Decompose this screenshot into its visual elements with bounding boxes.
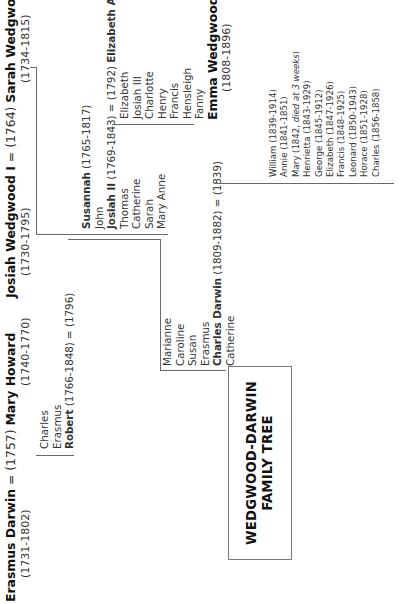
emma-wedgwood-dates: (1808-1896): [221, 23, 234, 92]
mary-howard-name: Mary Howard: [3, 333, 18, 426]
erasmus-darwin-couple: Erasmus Darwin = (1757) Mary Howard: [4, 333, 18, 602]
susannah-dates: (1765-1817): [80, 105, 92, 169]
child-susan: Susan: [186, 161, 199, 366]
connector-line: [214, 183, 274, 184]
charles-darwin-name: Charles Darwin: [211, 278, 223, 366]
connector-line: [68, 239, 160, 240]
connector-line: [274, 183, 394, 184]
child-horace: Horace (1851-1928): [359, 51, 370, 177]
title-line-2: FAMILY TREE: [260, 415, 277, 511]
josiah-marriage: = (1764): [3, 107, 18, 163]
charles-darwin-line: Charles Darwin (1809-1882) = (1839): [211, 161, 224, 366]
josiah-ii-line: Josiah II (1769-1843) = (1792) Elizabeth…: [105, 0, 118, 229]
child-caroline: Caroline: [174, 161, 187, 366]
mary-name: Mary (1842,: [291, 122, 301, 177]
child-mary: Mary (1842, died at 3 weeks): [291, 51, 302, 177]
josiah-ii-name: Josiah II: [105, 183, 117, 229]
child-francis: Francis: [168, 68, 181, 119]
robert-details: (1766-1848) = (1796): [63, 293, 75, 407]
josiah-wedgwood-dates: (1730-1795): [20, 207, 33, 276]
child-henrietta: Henrietta (1843-1929): [302, 51, 313, 177]
child-john: John: [93, 0, 106, 229]
josiah-ii-children-list: Elizabeth Josiah III Charlotte Henry Fra…: [118, 68, 206, 119]
family-tree-diagram: Erasmus Darwin = (1757) Mary Howard (173…: [0, 0, 407, 604]
emma-wedgwood-name: Emma Wedgwood: [206, 0, 220, 120]
child-william: William (1839-1914): [268, 51, 279, 177]
darwin-wedgwood-children-list: William (1839-1914) Annie (1841-1851) Ma…: [268, 51, 382, 177]
page: Erasmus Darwin = (1757) Mary Howard (173…: [0, 0, 407, 604]
title-line-1: WEDGWOOD-DARWIN: [244, 381, 261, 545]
child-elizabeth: Elizabeth: [118, 68, 131, 119]
child-george: George (1845-1912): [314, 51, 325, 177]
child-erasmus-2: Erasmus: [199, 161, 212, 366]
susannah-name: Susannah: [80, 172, 92, 229]
erasmus-darwin-dates: (1731-1802): [20, 509, 33, 578]
elizabeth-allen-name: Elizabeth Allen: [105, 0, 117, 63]
child-francis-d: Francis (1848-1925): [336, 51, 347, 177]
mary-close: ): [291, 51, 301, 54]
connector-line: [80, 234, 168, 235]
connector-line: [112, 124, 194, 125]
child-josiah-iii: Josiah III: [131, 68, 144, 119]
mary-note: died at 3 weeks: [291, 54, 301, 122]
child-leonard: Leonard (1850-1943): [348, 51, 359, 177]
child-annie: Annie (1841-1851): [279, 51, 290, 177]
susannah-line: Susannah (1765-1817): [80, 0, 93, 229]
robert-name: Robert: [63, 410, 75, 449]
sarah-wedgwood-dates: (1734-1815): [20, 14, 33, 83]
child-elizabeth-d: Elizabeth (1847-1926): [325, 51, 336, 177]
connector-line: [160, 370, 226, 371]
josiah-wedgwood-name: Josiah Wedgwood I: [3, 166, 18, 298]
mary-howard-dates: (1740-1770): [20, 317, 33, 386]
erasmus-children-list: Charles Erasmus Robert (1766-1848) = (17…: [38, 293, 76, 449]
title-box: WEDGWOOD-DARWIN FAMILY TREE: [228, 366, 292, 560]
connector-line: [36, 67, 37, 235]
robert-line: Robert (1766-1848) = (1796): [63, 293, 76, 449]
erasmus-marriage: = (1757): [3, 430, 18, 486]
child-charles: Charles: [38, 293, 51, 449]
child-erasmus: Erasmus: [51, 293, 64, 449]
josiah-wedgwood-couple: Josiah Wedgwood I = (1764) Sarah Wedgwoo…: [4, 0, 18, 298]
erasmus-darwin-name: Erasmus Darwin: [3, 489, 18, 602]
child-charlotte: Charlotte: [143, 68, 156, 119]
emma-name-text: Emma Wedgwood: [205, 0, 220, 120]
charles-darwin-details: (1809-1882) = (1839): [211, 161, 223, 275]
connector-line: [36, 455, 74, 456]
child-charles-d: Charles (1856-1858): [371, 51, 382, 177]
child-henry: Henry: [156, 68, 169, 119]
robert-children-list: Marianne Caroline Susan Erasmus Charles …: [161, 161, 236, 366]
sarah-wedgwood-name: Sarah Wedgwood: [3, 0, 18, 103]
child-fanny: Fanny: [193, 68, 206, 119]
josiah-ii-details: (1769-1843) = (1792): [105, 66, 117, 180]
child-catherine: Catherine: [224, 161, 237, 366]
child-hensleigh: Hensleigh: [181, 68, 194, 119]
